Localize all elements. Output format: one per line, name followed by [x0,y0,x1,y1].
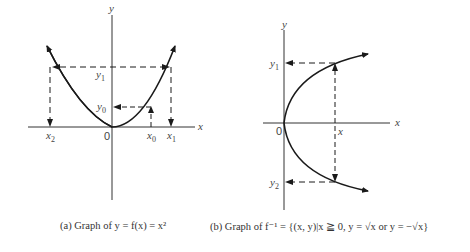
label-y1: y1 [270,58,279,70]
label-x1: x1 [167,130,176,142]
panel-a-x-axis-label: x [198,121,203,132]
panel-b-graph [263,30,390,210]
parabola-curve [47,46,175,127]
label-y0: y0 [97,101,106,113]
panel-b-y-axis-label: y [282,19,287,30]
label-x2: x2 [46,130,55,142]
panel-a-graph [28,15,195,200]
upper-branch-curve [284,54,368,123]
label-point-x: x [338,126,343,137]
panel-a-y-axis-label: y [109,3,114,14]
label-x0: x0 [147,130,156,142]
panel-b-origin-label: 0 [276,126,282,137]
lower-branch-curve [284,123,368,191]
label-y2: y2 [270,177,279,189]
caption-a: (a) Graph of y = f(x) = x² [60,220,166,231]
label-y1: y1 [96,69,105,81]
caption-b: (b) Graph of f⁻¹ = {(x, y)|x ≧ 0, y = √x… [210,220,428,232]
panel-b-x-axis-label: x [395,117,400,128]
panel-a-origin-label: 0 [104,131,110,142]
